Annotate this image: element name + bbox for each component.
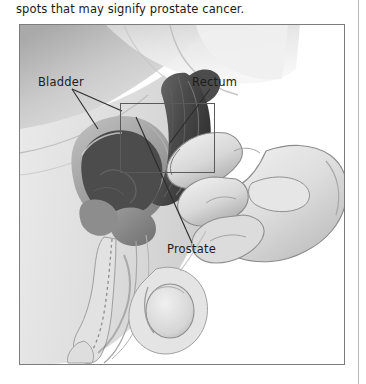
figure-caption: spots that may signify prostate cancer.: [16, 2, 346, 17]
figure-frame: Bladder Rectum Prostate: [19, 24, 345, 365]
label-bladder: Bladder: [38, 76, 84, 89]
label-rectum: Rectum: [192, 76, 237, 89]
page-divider-rule: [358, 0, 359, 384]
detail-callout-rectangle: [120, 103, 215, 173]
label-prostate: Prostate: [167, 243, 216, 256]
